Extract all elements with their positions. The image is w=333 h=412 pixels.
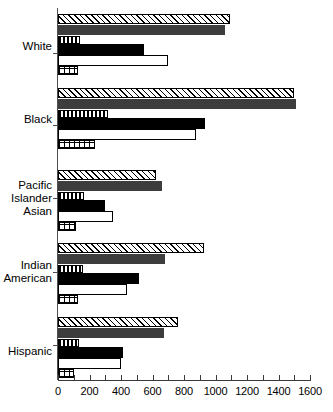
category-label-asian: Asian [0, 205, 52, 219]
x-axis-tick [74, 375, 75, 381]
bar-indian-american-series-6 [58, 295, 78, 304]
x-axis-tick [137, 375, 138, 381]
category-label-indian: Indian [0, 259, 52, 273]
x-axis-tick [121, 375, 122, 381]
category-label-white: White [0, 40, 52, 54]
category-label-hispanic: Hispanic [0, 345, 52, 359]
bar-black-series-2 [58, 99, 296, 109]
bar-white-series-2 [58, 25, 225, 35]
bar-pacific-islander-asian-series-3 [58, 192, 84, 200]
bar-white-series-1 [58, 14, 230, 24]
x-axis-tick [168, 375, 169, 381]
x-axis-tick [90, 375, 91, 381]
x-axis-tick [58, 375, 59, 381]
x-axis-tick [200, 375, 201, 381]
x-axis-label: 1600 [290, 385, 330, 397]
x-axis-tick [153, 375, 154, 381]
category-label-islander: Islander [0, 192, 52, 206]
bar-white-series-3 [58, 36, 80, 44]
bar-white-series-5 [58, 55, 168, 66]
bar-black-series-5 [58, 129, 196, 140]
category-label-pacific: Pacific [0, 179, 52, 193]
bar-hispanic-series-2 [58, 328, 164, 338]
bar-indian-american-series-3 [58, 265, 83, 273]
bar-indian-american-series-5 [58, 284, 127, 295]
bar-pacific-islander-asian-series-6 [58, 222, 76, 231]
bar-hispanic-series-1 [58, 317, 178, 327]
bar-hispanic-series-6 [58, 369, 74, 378]
x-axis-tick [105, 375, 106, 381]
x-axis-tick [247, 375, 248, 381]
bar-black-series-1 [58, 88, 294, 98]
bar-hispanic-series-3 [58, 339, 79, 347]
x-axis-tick [231, 375, 232, 381]
bar-indian-american-series-4 [58, 273, 139, 284]
bar-white-series-4 [58, 44, 144, 55]
bar-hispanic-series-5 [58, 358, 121, 369]
bar-black-series-6 [58, 140, 95, 149]
x-axis-tick [294, 375, 295, 381]
x-axis-tick [279, 375, 280, 381]
bar-black-series-3 [58, 110, 108, 118]
x-axis-tick [184, 375, 185, 381]
bar-chart: White Black Pacific Islander Asian India… [0, 0, 333, 412]
bar-pacific-islander-asian-series-2 [58, 181, 162, 191]
category-label-american: American [0, 272, 52, 286]
bar-pacific-islander-asian-series-1 [58, 170, 156, 180]
x-axis-tick [310, 375, 311, 381]
bar-white-series-6 [58, 66, 78, 75]
bar-indian-american-series-1 [58, 243, 204, 253]
x-axis-tick [263, 375, 264, 381]
bar-indian-american-series-2 [58, 254, 165, 264]
bar-pacific-islander-asian-series-5 [58, 211, 113, 222]
x-axis-tick [216, 375, 217, 381]
bar-black-series-4 [58, 118, 205, 129]
bar-hispanic-series-4 [58, 347, 123, 358]
category-label-black: Black [0, 113, 52, 127]
bar-pacific-islander-asian-series-4 [58, 200, 105, 211]
